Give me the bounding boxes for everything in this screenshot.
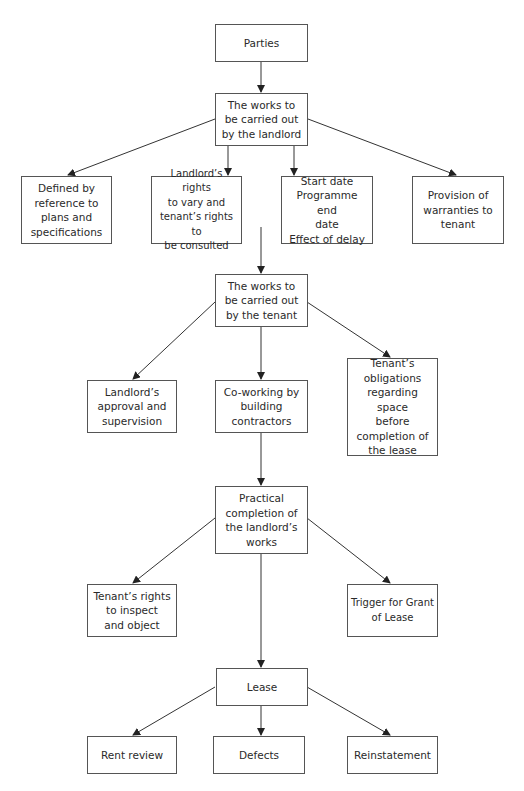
node-landlord-works: The works to be carried out by the landl… <box>215 93 308 146</box>
node-reinstatement: Reinstatement <box>347 736 438 774</box>
arrow-to-tenant-inspect <box>133 518 215 583</box>
node-dates: Start date Programme end date Effect of … <box>281 176 373 244</box>
node-rent-review: Rent review <box>87 736 177 774</box>
arrow-to-warranties <box>308 119 456 175</box>
node-coworking: Co-working by building contractors <box>215 380 308 433</box>
arrow-to-landlord-approval <box>133 302 215 379</box>
node-landlord-rights: Landlord’s rights to vary and tenant’s r… <box>151 176 242 244</box>
node-practical-completion: Practical completion of the landlord’s w… <box>215 486 308 554</box>
arrow-to-tenant-obligations <box>307 302 390 357</box>
node-landlord-approval: Landlord’s approval and supervision <box>87 380 177 433</box>
node-tenant-inspect: Tenant’s rights to inspect and object <box>87 584 177 637</box>
node-defined-by: Defined by reference to plans and specif… <box>21 176 112 244</box>
node-tenant-obligations: Tenant’s obligations regarding space bef… <box>347 358 438 456</box>
node-lease: Lease <box>216 668 308 706</box>
arrow-to-trigger-grant <box>307 518 390 583</box>
flowchart: Parties The works to be carried out by t… <box>0 0 524 791</box>
node-tenant-works: The works to be carried out by the tenan… <box>215 274 308 327</box>
node-warranties: Provision of warranties to tenant <box>412 176 504 244</box>
arrow-to-rent-review <box>133 687 215 735</box>
node-trigger-grant: Trigger for Grant of Lease <box>347 584 438 637</box>
node-defects: Defects <box>213 736 305 774</box>
node-parties: Parties <box>215 24 308 62</box>
arrow-to-reinstatement <box>307 687 390 735</box>
